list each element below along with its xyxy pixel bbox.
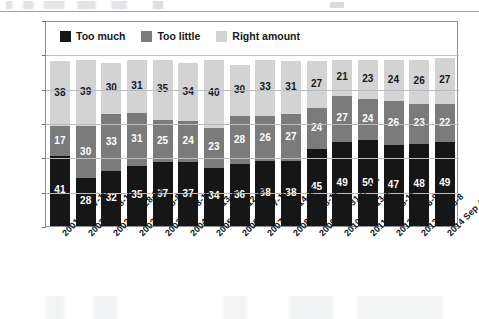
- bar-segment-value: 35: [157, 83, 168, 94]
- y-tick-100: [42, 55, 46, 56]
- bar-segment-too-little[interactable]: 24: [307, 108, 327, 149]
- bar-segment-value: 17: [54, 135, 65, 146]
- bar-segment-too-little[interactable]: 24: [178, 121, 198, 162]
- bar-segment-value: 49: [439, 177, 450, 188]
- legend-label-right-amount: Right amount: [232, 30, 300, 42]
- bar-segment-too-little[interactable]: 17: [50, 126, 70, 155]
- legend-label-too-much: Too much: [76, 30, 125, 42]
- bar-segment-right-amount[interactable]: 24: [384, 60, 404, 101]
- legend-swatch-too-much-icon: [60, 31, 71, 42]
- bar-segment-value: 31: [131, 133, 142, 144]
- y-tick-80: [42, 90, 46, 91]
- bar-segment-value: 23: [414, 117, 425, 128]
- bar-segment-value: 34: [183, 86, 194, 97]
- page-top-cropped-heading-artifact: [6, 1, 266, 9]
- bar-segment-value: 23: [362, 73, 373, 84]
- bar-segment-value: 27: [311, 78, 322, 89]
- bar-segment-value: 21: [337, 71, 348, 82]
- y-tick-60: [42, 124, 46, 125]
- y-tick-20: [42, 193, 46, 194]
- bar-segment-right-amount[interactable]: 34: [178, 63, 198, 121]
- bar-segment-value: 22: [439, 117, 450, 128]
- bar-segment-too-little[interactable]: 30: [76, 126, 96, 178]
- gridline-40: [46, 158, 459, 159]
- bar-segment-value: 49: [337, 177, 348, 188]
- bar-segment-right-amount[interactable]: 27: [435, 58, 455, 104]
- bar-segment-too-much[interactable]: 41: [50, 156, 70, 226]
- y-tick-120: [42, 21, 46, 22]
- bar-segment-value: 27: [337, 112, 348, 123]
- bar-segment-too-little[interactable]: 27: [281, 114, 301, 160]
- gridline-60: [46, 124, 459, 125]
- legend-swatch-right-amount-icon: [216, 31, 227, 42]
- bar-segment-right-amount[interactable]: 38: [50, 61, 70, 126]
- y-tick-0: [42, 227, 46, 228]
- page-top-rule: [0, 11, 479, 12]
- bar-segment-right-amount[interactable]: 31: [281, 61, 301, 114]
- bar-segment-right-amount[interactable]: 40: [204, 60, 224, 129]
- bar-segment-too-little[interactable]: 27: [332, 96, 352, 142]
- legend-item-right-amount: Right amount: [216, 30, 300, 42]
- gridline-80: [46, 90, 459, 91]
- bar-segment-value: 23: [208, 141, 219, 152]
- bar-segment-right-amount[interactable]: 27: [307, 61, 327, 107]
- bar-segment-right-amount[interactable]: 23: [358, 60, 378, 99]
- bar-segment-too-little[interactable]: 26: [255, 116, 275, 161]
- bar-segment-value: 28: [234, 134, 245, 145]
- legend-item-too-little: Too little: [141, 30, 200, 42]
- bar-segment-value: 26: [260, 132, 271, 143]
- bar-segment-value: 25: [157, 135, 168, 146]
- bar-segment-value: 24: [183, 135, 194, 146]
- bar-segment-right-amount[interactable]: 33: [255, 60, 275, 117]
- bar-segment-value: 33: [260, 81, 271, 92]
- bar-segment-value: 26: [414, 75, 425, 86]
- bar-segment-value: 41: [54, 184, 65, 195]
- bar-segment-value: 30: [80, 146, 91, 157]
- bar-segment-value: 30: [106, 82, 117, 93]
- page-top-artifact-mark: [330, 2, 344, 8]
- bar-segment-too-little[interactable]: 24: [358, 99, 378, 140]
- bar-segment-right-amount[interactable]: 39: [76, 60, 96, 127]
- chart-legend: Too much Too little Right amount: [60, 30, 300, 42]
- bar-segment-value: 26: [388, 117, 399, 128]
- bar-segment-value: 24: [388, 74, 399, 85]
- bar-segment-value: 39: [80, 86, 91, 97]
- legend-label-too-little: Too little: [157, 30, 200, 42]
- legend-swatch-too-little-icon: [141, 31, 152, 42]
- x-axis-labels: 2001 Sep 7-102002 Feb 8-102002 Jun 28-30…: [45, 229, 458, 319]
- y-tick-40: [42, 158, 46, 159]
- bar-segment-right-amount[interactable]: 26: [409, 60, 429, 105]
- bar-segment-too-little[interactable]: 22: [435, 104, 455, 142]
- bar-segment-value: 27: [285, 131, 296, 142]
- gridline-100: [46, 55, 459, 56]
- bar-segment-value: 48: [414, 178, 425, 189]
- bar-segment-value: 33: [106, 136, 117, 147]
- legend-item-too-much: Too much: [60, 30, 125, 42]
- bar-segment-too-little[interactable]: 33: [101, 114, 121, 171]
- bar-segment-value: 27: [439, 74, 450, 85]
- bar-segment-right-amount[interactable]: 31: [127, 60, 147, 113]
- bar-segment-too-little[interactable]: 23: [204, 128, 224, 167]
- bar-segment-too-little[interactable]: 25: [153, 120, 173, 163]
- bar-segment-value: 31: [285, 81, 296, 92]
- bar-segment-value: 24: [362, 113, 373, 124]
